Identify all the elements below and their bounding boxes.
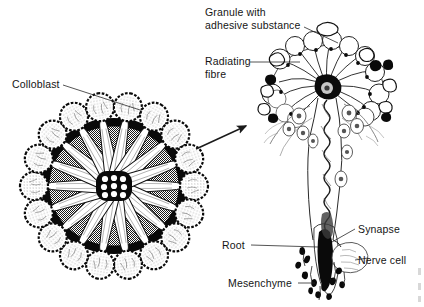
label-nerve-cell: Nerve cell (358, 254, 406, 266)
label-radiating-line1: Radiating (205, 55, 251, 67)
colloblast-head-nucleus (315, 74, 342, 99)
label-colloblast: Colloblast (12, 78, 60, 90)
leader-root (251, 245, 318, 247)
label-root: Root (222, 239, 245, 251)
figure-root: Colloblast Granule with adhesive substan… (0, 0, 424, 307)
label-mesenchyme: Mesenchyme (228, 277, 292, 289)
scan-artifacts (418, 268, 421, 302)
colloblast-rosette-group (20, 91, 208, 281)
label-granule-line2: adhesive substance (205, 19, 301, 31)
label-synapse: Synapse (358, 223, 400, 235)
label-radiating-line2: fibre (205, 68, 226, 80)
label-granule-line1: Granule with (205, 6, 266, 18)
rosette-central-nucleus (96, 171, 132, 201)
magnification-arrow (196, 126, 246, 149)
biology-diagram-svg: Colloblast Granule with adhesive substan… (0, 0, 424, 307)
